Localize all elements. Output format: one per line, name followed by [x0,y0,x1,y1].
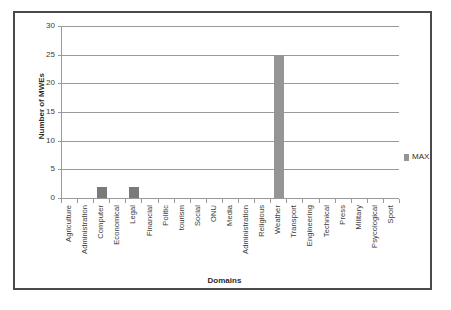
x-axis-tick [335,199,336,203]
y-axis-tick-label: 20 [46,79,55,87]
x-axis-tick [286,199,287,203]
gridline [62,26,399,27]
x-axis-category-label: Agriculture [65,205,73,242]
x-axis-category-label: Economical [113,205,121,245]
y-axis-tick [58,141,62,142]
x-axis-category-label: Administration [242,205,250,254]
x-axis-tick [367,199,368,203]
y-axis-tick-label: 10 [46,137,55,145]
x-axis-tick [270,199,271,203]
gridline [62,169,399,170]
x-axis-category-label: Military [355,205,363,230]
x-axis-tick [319,199,320,203]
x-axis-category-label: Legal [129,205,137,224]
x-axis-tick [109,199,110,203]
y-axis-tick-label: 25 [46,51,55,59]
y-axis-tick-label: 0 [51,194,55,202]
x-axis-category-label: Religious [258,205,266,237]
y-axis-tick [58,112,62,113]
x-axis-category-label: Psycological [371,205,379,248]
x-axis-tick [206,199,207,203]
gridline [62,112,399,113]
x-axis-category-label: Social [194,205,202,226]
x-axis-tick [383,199,384,203]
x-axis-title: Domains [15,277,434,285]
x-axis-category-label: Administration [81,205,89,254]
y-axis-tick [58,169,62,170]
y-axis-tick-label: 5 [51,165,55,173]
chart-bar [97,187,107,198]
x-axis-category-label: Computer [97,205,105,239]
x-axis-category-label: Financial [146,205,154,236]
y-axis-tick [58,83,62,84]
x-axis-tick [77,199,78,203]
chart-bar [129,187,139,198]
x-axis-tick [158,199,159,203]
x-axis-line [61,198,399,199]
x-axis-tick [254,199,255,203]
x-axis-category-label: Weather [274,205,282,234]
y-axis-tick-label: 30 [46,22,55,30]
y-axis-title: Number of MWEs [38,73,46,139]
plot-area: 051015202530 [61,26,399,198]
y-axis-tick-label: 15 [46,108,55,116]
x-axis-category-label: ONU [210,205,218,222]
y-axis-tick [58,55,62,56]
x-axis-tick [351,199,352,203]
x-axis-tick [238,199,239,203]
x-axis-tick [222,199,223,203]
gridline [62,83,399,84]
x-axis-tick [190,199,191,203]
y-axis-tick [58,26,62,27]
chart-bar [274,55,284,198]
x-axis-category-label: Press [339,205,347,225]
x-axis-category-label: Transport [290,205,298,238]
x-axis-category-label: Engineering [306,205,314,246]
chart-legend: MAX [404,153,429,161]
x-axis-tick [61,199,62,203]
x-axis-category-label: Technical [323,205,331,237]
chart-frame: Number of MWEs 051015202530 Domains MAX … [13,11,432,290]
legend-swatch-max [404,154,409,161]
x-axis-tick [141,199,142,203]
legend-label-max: MAX [412,153,429,161]
gridline [62,55,399,56]
chart-figure: Number of MWEs 051015202530 Domains MAX … [0,0,451,310]
x-axis-category-label: Politic [162,205,170,226]
x-axis-tick [399,199,400,203]
x-axis-tick [302,199,303,203]
x-axis-category-label: tourism [178,205,186,230]
x-axis-tick [174,199,175,203]
gridline [62,141,399,142]
x-axis-category-label: Media [226,205,234,226]
x-axis-tick [125,199,126,203]
x-axis-tick [93,199,94,203]
x-axis-category-label: Sport [387,205,395,223]
